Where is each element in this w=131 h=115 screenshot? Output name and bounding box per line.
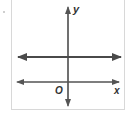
coordinate-plane: y x O — [0, 0, 131, 115]
x-axis-label: x — [113, 85, 120, 96]
y-axis-label: y — [72, 3, 80, 15]
origin-label: O — [55, 85, 63, 96]
